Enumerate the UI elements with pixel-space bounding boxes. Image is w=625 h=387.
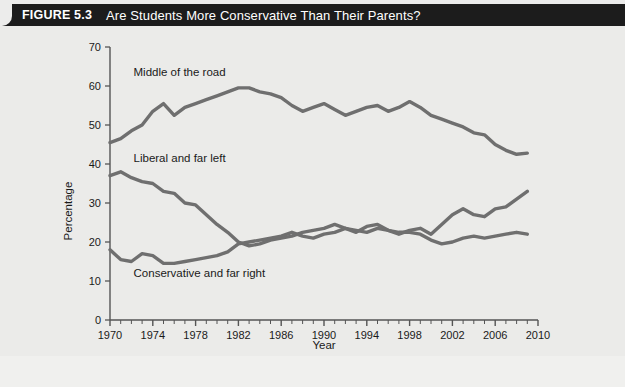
x-axis-tick-label: 1994 [355,329,379,341]
y-axis-tick-label: 40 [89,158,101,170]
x-axis-tick-label: 1986 [269,329,293,341]
series-line-conservative-and-far-right [110,228,527,263]
series-label-conservative-and-far-right: Conservative and far right [134,267,266,279]
x-axis-tick-label: 1974 [141,329,165,341]
x-axis-tick-label: 2006 [483,329,507,341]
y-axis-tick-label: 20 [89,236,101,248]
x-axis-tick-label: 1982 [226,329,250,341]
y-axis-tick-label: 30 [89,197,101,209]
data-series-group [110,88,527,264]
series-line-middle-of-the-road [110,88,527,154]
figure-header-bar: FIGURE 5.3 Are Students More Conservativ… [0,4,625,26]
x-axis-tick-label: 1998 [397,329,421,341]
figure-number: FIGURE 5.3 [22,8,92,22]
caption-sliver-cutoff [8,378,438,385]
series-label-liberal-and-far-left: Liberal and far left [134,152,227,164]
x-axis-title: Year [312,339,335,351]
y-axis: 010203040506070 [89,41,110,326]
y-axis-tick-label: 10 [89,275,101,287]
x-axis-tick-label: 2002 [440,329,464,341]
series-label-middle-of-the-road: Middle of the road [134,66,226,78]
series-labels-group: Middle of the roadLiberal and far leftCo… [134,66,266,279]
y-axis-tick-label: 60 [89,80,101,92]
y-axis-tick-label: 0 [95,314,101,326]
line-chart: 010203040506070 197019741978198219861990… [0,26,625,356]
y-axis-tick-label: 50 [89,119,101,131]
figure-title: Are Students More Conservative Than Thei… [106,8,421,23]
x-axis-tick-label: 2010 [526,329,550,341]
x-axis-tick-label: 1970 [98,329,122,341]
x-axis-tick-label: 1978 [183,329,207,341]
chart-panel: 010203040506070 197019741978198219861990… [0,26,625,356]
y-axis-tick-label: 70 [89,41,101,53]
x-axis: 1970197419781982198619901994199820022006… [98,320,550,341]
y-axis-title: Percentage [62,182,74,241]
